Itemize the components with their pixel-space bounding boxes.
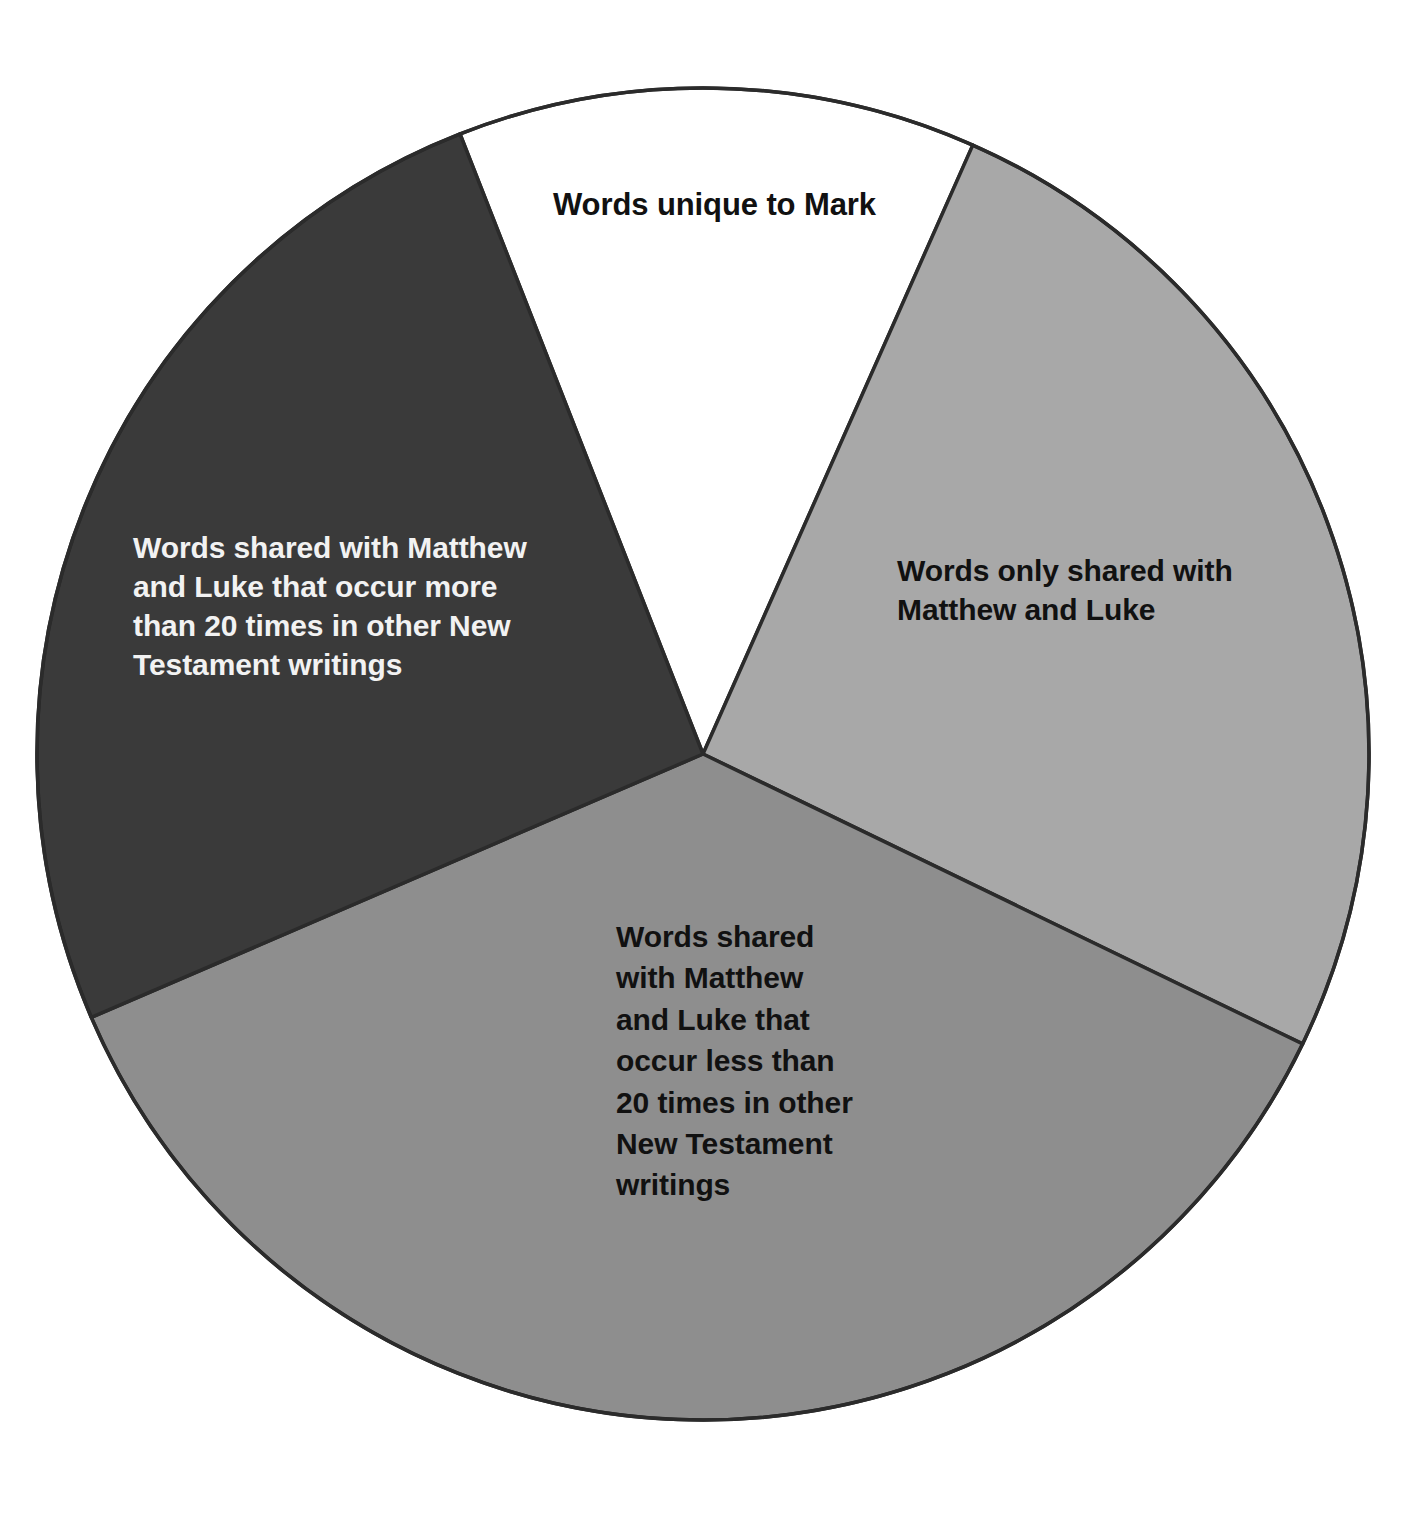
pie-chart-figure: Words unique to Mark Words only shared w… [0, 0, 1401, 1521]
pie-slices [37, 88, 1369, 1420]
pie-chart-svg [0, 0, 1401, 1521]
